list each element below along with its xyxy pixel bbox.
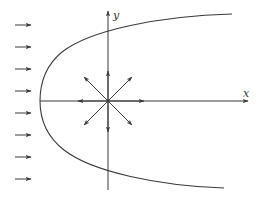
- source-arrow-up-left-icon: [84, 77, 108, 101]
- incoming-flow-arrows: [15, 25, 31, 179]
- source-arrows: [78, 71, 144, 132]
- source-arrow-down-left-icon: [84, 101, 108, 125]
- source-arrow-down-right-icon: [108, 101, 132, 125]
- flow-diagram: x y: [0, 0, 265, 199]
- x-axis-label: x: [243, 87, 250, 100]
- source-arrow-up-right-icon: [108, 77, 132, 101]
- source-point: [107, 100, 110, 103]
- y-axis-label: y: [112, 9, 120, 22]
